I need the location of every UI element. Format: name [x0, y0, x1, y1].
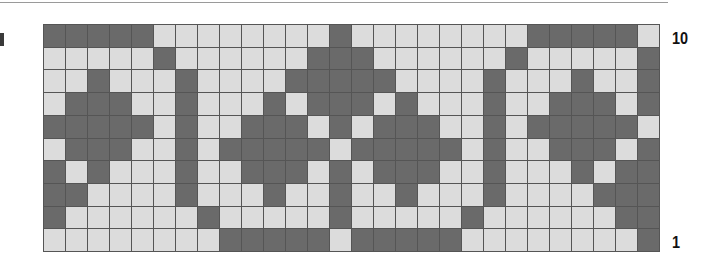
- light-stitch-cell: [374, 25, 395, 47]
- dark-stitch-cell: [572, 70, 593, 92]
- dark-stitch-cell: [352, 48, 373, 70]
- dark-stitch-cell: [572, 116, 593, 138]
- light-stitch-cell: [572, 207, 593, 229]
- light-stitch-cell: [616, 70, 637, 92]
- dark-stitch-cell: [330, 70, 351, 92]
- light-stitch-cell: [220, 48, 241, 70]
- light-stitch-cell: [242, 93, 263, 115]
- light-stitch-cell: [572, 229, 593, 251]
- light-stitch-cell: [154, 93, 175, 115]
- light-stitch-cell: [616, 93, 637, 115]
- light-stitch-cell: [110, 161, 131, 183]
- light-stitch-cell: [374, 184, 395, 206]
- light-stitch-cell: [110, 229, 131, 251]
- dark-stitch-cell: [484, 139, 505, 161]
- light-stitch-cell: [110, 207, 131, 229]
- dark-stitch-cell: [330, 116, 351, 138]
- light-stitch-cell: [44, 48, 65, 70]
- cropped-label-fragment: [0, 33, 4, 46]
- light-stitch-cell: [198, 116, 219, 138]
- dark-stitch-cell: [330, 93, 351, 115]
- dark-stitch-cell: [242, 229, 263, 251]
- light-stitch-cell: [198, 139, 219, 161]
- dark-stitch-cell: [374, 139, 395, 161]
- light-stitch-cell: [220, 184, 241, 206]
- light-stitch-cell: [440, 207, 461, 229]
- dark-stitch-cell: [264, 116, 285, 138]
- dark-stitch-cell: [396, 161, 417, 183]
- dark-stitch-cell: [286, 139, 307, 161]
- light-stitch-cell: [220, 70, 241, 92]
- light-stitch-cell: [352, 207, 373, 229]
- top-rule: [0, 2, 668, 3]
- light-stitch-cell: [462, 48, 483, 70]
- dark-stitch-cell: [638, 48, 659, 70]
- row-label-top: 10: [672, 29, 688, 49]
- light-stitch-cell: [176, 207, 197, 229]
- light-stitch-cell: [132, 161, 153, 183]
- light-stitch-cell: [528, 139, 549, 161]
- light-stitch-cell: [484, 48, 505, 70]
- dark-stitch-cell: [638, 229, 659, 251]
- dark-stitch-cell: [110, 93, 131, 115]
- dark-stitch-cell: [396, 93, 417, 115]
- light-stitch-cell: [110, 48, 131, 70]
- dark-stitch-cell: [484, 116, 505, 138]
- dark-stitch-cell: [418, 116, 439, 138]
- dark-stitch-cell: [66, 93, 87, 115]
- light-stitch-cell: [286, 207, 307, 229]
- dark-stitch-cell: [330, 184, 351, 206]
- light-stitch-cell: [242, 48, 263, 70]
- dark-stitch-cell: [638, 184, 659, 206]
- light-stitch-cell: [154, 70, 175, 92]
- dark-stitch-cell: [550, 116, 571, 138]
- dark-stitch-cell: [176, 161, 197, 183]
- light-stitch-cell: [264, 207, 285, 229]
- dark-stitch-cell: [176, 93, 197, 115]
- light-stitch-cell: [462, 229, 483, 251]
- light-stitch-cell: [44, 139, 65, 161]
- dark-stitch-cell: [418, 161, 439, 183]
- light-stitch-cell: [528, 48, 549, 70]
- light-stitch-cell: [44, 93, 65, 115]
- light-stitch-cell: [154, 161, 175, 183]
- dark-stitch-cell: [594, 139, 615, 161]
- dark-stitch-cell: [462, 207, 483, 229]
- light-stitch-cell: [66, 48, 87, 70]
- dark-stitch-cell: [308, 139, 329, 161]
- dark-stitch-cell: [352, 93, 373, 115]
- light-stitch-cell: [88, 207, 109, 229]
- dark-stitch-cell: [110, 139, 131, 161]
- light-stitch-cell: [242, 70, 263, 92]
- light-stitch-cell: [506, 116, 527, 138]
- light-stitch-cell: [286, 184, 307, 206]
- dark-stitch-cell: [352, 70, 373, 92]
- dark-stitch-cell: [550, 25, 571, 47]
- light-stitch-cell: [132, 48, 153, 70]
- light-stitch-cell: [462, 25, 483, 47]
- dark-stitch-cell: [308, 48, 329, 70]
- dark-stitch-cell: [396, 116, 417, 138]
- light-stitch-cell: [220, 207, 241, 229]
- dark-stitch-cell: [88, 139, 109, 161]
- light-stitch-cell: [484, 25, 505, 47]
- dark-stitch-cell: [132, 116, 153, 138]
- dark-stitch-cell: [528, 25, 549, 47]
- dark-stitch-cell: [572, 139, 593, 161]
- dark-stitch-cell: [440, 139, 461, 161]
- light-stitch-cell: [264, 25, 285, 47]
- dark-stitch-cell: [374, 161, 395, 183]
- light-stitch-cell: [66, 207, 87, 229]
- light-stitch-cell: [462, 93, 483, 115]
- light-stitch-cell: [462, 116, 483, 138]
- light-stitch-cell: [462, 161, 483, 183]
- light-stitch-cell: [440, 25, 461, 47]
- light-stitch-cell: [286, 25, 307, 47]
- dark-stitch-cell: [286, 229, 307, 251]
- light-stitch-cell: [374, 93, 395, 115]
- light-stitch-cell: [528, 229, 549, 251]
- light-stitch-cell: [550, 207, 571, 229]
- dark-stitch-cell: [286, 70, 307, 92]
- light-stitch-cell: [506, 25, 527, 47]
- dark-stitch-cell: [110, 25, 131, 47]
